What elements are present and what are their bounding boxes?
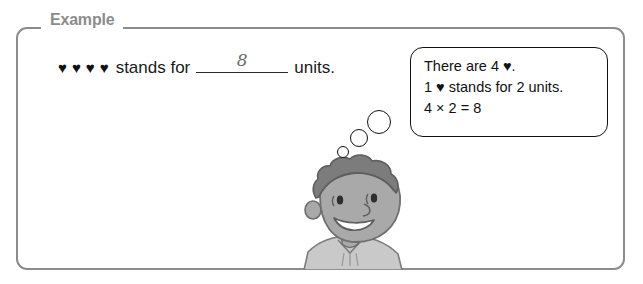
character-left-eye [337,195,343,204]
thought-bubble-line-3: 4 × 2 = 8 [424,98,563,119]
example-panel-legend: Example [41,11,123,29]
answer-handwritten-value: 8 [196,50,288,70]
thought-bubble-line-1: There are 4 ♥. [424,56,563,77]
question-statement: ♥ ♥ ♥ ♥ stands for 8 units. [58,52,335,80]
heart-icon: ♥ [100,58,109,78]
character-right-eye [371,193,377,202]
stands-for-label: stands for [116,58,191,78]
heart-icon: ♥ [58,58,67,78]
character-ear [305,201,321,219]
heart-icon: ♥ [86,58,95,78]
thought-bubble: There are 4 ♥. 1 ♥ stands for 2 units. 4… [410,47,608,137]
student-character-illustration [290,152,414,270]
thought-circle-medium-icon [350,129,368,147]
thought-bubble-text: There are 4 ♥. 1 ♥ stands for 2 units. 4… [424,56,563,119]
thought-circle-large-icon [367,110,391,134]
answer-blank-field[interactable]: 8 [196,52,288,73]
heart-icon: ♥ [72,58,81,78]
thought-bubble-line-2: 1 ♥ stands for 2 units. [424,77,563,98]
thought-circle-small-icon [337,146,349,158]
heart-quantity-row: ♥ ♥ ♥ ♥ [58,58,109,78]
units-label: units. [294,58,335,78]
